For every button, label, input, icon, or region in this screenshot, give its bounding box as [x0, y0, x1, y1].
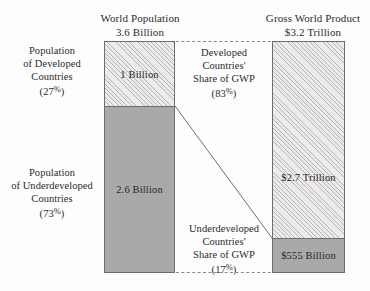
- segment-underdeveloped-population: 2.6 Billion: [105, 106, 174, 272]
- label-population-developed-line1: Population: [29, 45, 75, 56]
- label-developed-share-of-gwp: Developed Countries' Share of GWP (83%): [177, 46, 271, 100]
- label-population-underdeveloped-countries: Population of Underdeveloped Countries (…: [0, 166, 104, 220]
- segment-developed-population: 1 Billion: [105, 42, 174, 106]
- value-underdeveloped-gwp: $555 Billion: [281, 250, 336, 261]
- label-population-underdeveloped-line1: Population: [29, 167, 75, 178]
- label-underdeveloped-gwp-line3: Share of GWP: [193, 249, 255, 260]
- label-underdeveloped-gwp-line2: Countries': [202, 236, 245, 247]
- value-developed-gwp: $2.7 Trillion: [273, 172, 344, 183]
- label-underdeveloped-share-of-gwp: Underdeveloped Countries' Share of GWP (…: [175, 222, 273, 276]
- header-gross-world-product-line2: $3.2 Trillion: [256, 26, 370, 40]
- label-developed-gwp-line3: Share of GWP: [193, 73, 255, 84]
- label-developed-gwp-line1: Developed: [201, 47, 247, 58]
- bar-world-population: 1 Billion 2.6 Billion: [104, 41, 175, 273]
- label-population-developed-percent: (27%): [2, 83, 102, 98]
- header-world-population: World Population 3.6 Billion: [94, 12, 186, 39]
- value-underdeveloped-population: 2.6 Billion: [116, 184, 163, 195]
- header-gross-world-product: Gross World Product $3.2 Trillion: [256, 12, 370, 39]
- label-population-developed-line2: of Developed: [23, 58, 80, 69]
- population-gwp-comparison-diagram: World Population 3.6 Billion Gross World…: [0, 0, 370, 291]
- label-population-underdeveloped-line3: Countries: [31, 193, 72, 204]
- label-developed-gwp-percent: (83%): [177, 85, 271, 100]
- segment-developed-gwp: $2.7 Trillion: [273, 42, 344, 238]
- label-developed-gwp-line2: Countries': [202, 60, 245, 71]
- header-world-population-line2: 3.6 Billion: [94, 26, 186, 40]
- label-underdeveloped-gwp-percent: (17%): [175, 261, 273, 276]
- label-population-underdeveloped-percent: (73%): [0, 205, 104, 220]
- diagonal-divider-line: [175, 106, 272, 238]
- header-gross-world-product-line1: Gross World Product: [256, 12, 370, 26]
- label-underdeveloped-gwp-line1: Underdeveloped: [189, 223, 259, 234]
- header-world-population-line1: World Population: [94, 12, 186, 26]
- bar-gross-world-product: $2.7 Trillion $555 Billion: [272, 41, 345, 273]
- label-population-underdeveloped-line2: of Underdeveloped: [11, 180, 93, 191]
- segment-underdeveloped-gwp: $555 Billion: [273, 238, 344, 272]
- label-population-developed-line3: Countries: [31, 71, 72, 82]
- value-developed-population: 1 Billion: [120, 69, 158, 80]
- label-population-developed-countries: Population of Developed Countries (27%): [2, 44, 102, 98]
